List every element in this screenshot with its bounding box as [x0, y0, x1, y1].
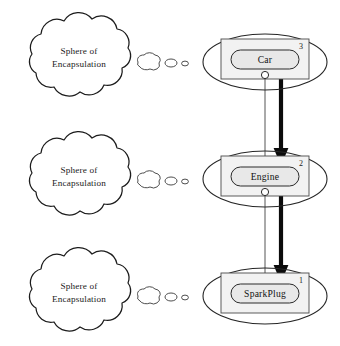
- node-number: 3: [299, 42, 303, 51]
- cloud-puff-medium: [165, 177, 177, 185]
- node-number: 2: [299, 159, 303, 168]
- cloud-puff-small: [182, 179, 189, 184]
- cloud-puff-large: [137, 171, 160, 188]
- node-socket-icon: [261, 188, 268, 195]
- node-number: 1: [299, 276, 303, 285]
- encapsulation-diagram: Sphere of Encapsulation Sphere of Encaps…: [0, 0, 340, 346]
- cloud-puff-large: [137, 287, 160, 304]
- cloud-label-line1: Sphere of: [61, 165, 99, 175]
- cloud-puff-medium: [165, 59, 177, 67]
- node-label: Engine: [251, 171, 279, 182]
- cloud-puff-medium: [165, 293, 177, 301]
- cloud-top: Sphere of Encapsulation: [29, 13, 188, 96]
- diagram-canvas: Sphere of Encapsulation Sphere of Encaps…: [0, 0, 340, 346]
- cloud-label-line1: Sphere of: [61, 281, 99, 291]
- cloud-label-line2: Encapsulation: [52, 178, 106, 188]
- cloud-bottom: Sphere of Encapsulation: [29, 248, 188, 331]
- cloud-label-line1: Sphere of: [61, 46, 99, 56]
- node-sparkplug[interactable]: SparkPlug 1: [203, 268, 327, 324]
- cloud-puff-small: [182, 61, 189, 66]
- node-label: SparkPlug: [244, 288, 286, 299]
- cloud-middle: Sphere of Encapsulation: [29, 132, 188, 215]
- cloud-puff-large: [137, 53, 160, 70]
- node-socket-icon: [261, 71, 268, 78]
- cloud-puff-small: [182, 295, 189, 300]
- node-label: Car: [258, 54, 273, 65]
- cloud-label-line2: Encapsulation: [52, 294, 106, 304]
- cloud-label-line2: Encapsulation: [52, 59, 106, 69]
